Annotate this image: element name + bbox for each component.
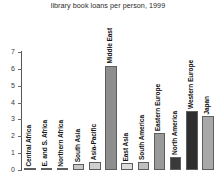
bar[interactable] — [73, 164, 85, 170]
bar-category-label: North America — [172, 111, 179, 155]
y-axis-tick-label: 4 — [11, 98, 15, 107]
bar[interactable] — [186, 111, 198, 170]
bar-chart: library book loans per person, 1999 0123… — [0, 0, 216, 173]
bar[interactable] — [170, 157, 182, 170]
bar[interactable] — [89, 162, 101, 170]
bar[interactable] — [57, 168, 69, 170]
y-axis: 01234567 — [0, 45, 22, 173]
bar-category-label: Middle East — [107, 28, 114, 64]
y-axis-tick-label: 5 — [11, 81, 15, 90]
bar-category-label: South Asia — [75, 129, 82, 162]
bar[interactable] — [138, 162, 150, 170]
bar-category-label: Eastern Europe — [155, 84, 162, 131]
plot-area: Central AfricaE. and S. AfricaNorthern A… — [22, 52, 216, 170]
bar[interactable] — [121, 163, 133, 170]
bar[interactable] — [41, 168, 53, 170]
bar[interactable] — [105, 66, 117, 171]
bar-category-label: Northern Africa — [58, 120, 65, 167]
bar-category-label: South America — [139, 115, 146, 160]
y-axis-tick-label: 6 — [11, 64, 15, 73]
y-axis-tick-label: 1 — [11, 148, 15, 157]
y-axis-tick-label: 3 — [11, 114, 15, 123]
bar-category-label: East Asia — [123, 133, 130, 162]
y-axis-tick-label: 2 — [11, 131, 15, 140]
chart-title: library book loans per person, 1999 — [0, 1, 216, 10]
bar-category-label: Western Europe — [188, 60, 195, 109]
y-axis-tick-label: 0 — [11, 165, 15, 173]
bar-category-label: Japan — [204, 96, 211, 115]
bar[interactable] — [202, 116, 214, 170]
bar[interactable] — [24, 168, 36, 170]
bar[interactable] — [154, 133, 166, 170]
bar-category-label: Asia-Pacific — [91, 124, 98, 160]
y-axis-tick-label: 7 — [11, 47, 15, 56]
bar-category-label: Central Africa — [26, 125, 33, 167]
bar-category-label: E. and S. Africa — [42, 120, 49, 167]
y-axis-tick-mark — [18, 170, 22, 171]
